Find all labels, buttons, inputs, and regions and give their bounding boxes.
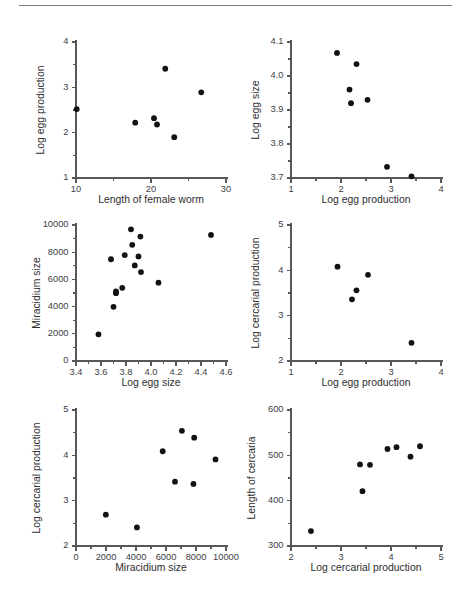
- y-axis-title: Length of cercaria: [246, 436, 257, 519]
- data-point: [417, 443, 423, 449]
- data-point: [357, 462, 363, 468]
- y-tick-label: 600: [268, 404, 284, 414]
- panel-5-plot: 23450200040006000800010000Miracidium siz…: [28, 398, 233, 573]
- y-tick-label: 4000: [48, 301, 69, 311]
- data-point: [208, 232, 214, 238]
- data-series: [96, 226, 214, 337]
- x-tick-label: 4000: [126, 552, 147, 562]
- y-tick-label: 400: [268, 495, 284, 505]
- x-tick-label: 4: [438, 184, 443, 194]
- data-point: [103, 512, 109, 518]
- y-axis-title: Log cercarial production: [250, 237, 261, 348]
- data-point: [409, 340, 415, 346]
- y-tick-label: 500: [268, 450, 284, 460]
- x-tick-label: 6000: [156, 552, 177, 562]
- panel-6: 3004005006002345Log cercarial production…: [243, 398, 448, 573]
- data-series: [334, 50, 414, 179]
- data-point: [385, 446, 391, 452]
- x-tick-label: 5: [438, 552, 443, 562]
- data-point: [119, 285, 125, 291]
- y-tick-label: 3: [63, 495, 68, 505]
- x-tick-label: 3: [388, 184, 393, 194]
- x-tick-label: 8000: [186, 552, 207, 562]
- x-tick-label: 4.2: [170, 367, 183, 377]
- x-tick-label: 3: [338, 552, 343, 562]
- y-tick-label: 3.9: [271, 104, 284, 114]
- data-point: [409, 173, 415, 179]
- y-axis-title: Log cercarial production: [31, 422, 42, 533]
- panel-2: 3.73.83.94.04.11234Log egg productionLog…: [243, 30, 448, 205]
- y-tick-label: 5: [63, 404, 68, 414]
- data-point: [111, 304, 117, 310]
- y-tick-label: 3: [278, 310, 283, 320]
- data-point: [408, 454, 414, 460]
- data-point: [347, 87, 353, 93]
- y-tick-label: 5: [278, 219, 283, 229]
- data-point: [136, 254, 142, 260]
- x-axis-title: Log egg size: [122, 377, 181, 388]
- panel-6-plot: 3004005006002345Log cercarial production…: [243, 398, 448, 573]
- data-series: [308, 443, 423, 534]
- panel-2-plot: 3.73.83.94.04.11234Log egg productionLog…: [243, 30, 448, 205]
- x-axis-title: Log cercarial production: [311, 562, 422, 573]
- top-horizontal-rule: [19, 5, 452, 6]
- data-point: [128, 226, 134, 232]
- data-point: [132, 120, 138, 126]
- figure-page: 1234102030Length of female wormLog egg p…: [0, 0, 461, 603]
- y-tick-label: 0: [63, 355, 68, 365]
- data-point: [334, 50, 340, 56]
- data-point: [134, 525, 140, 531]
- panel-3: 02000400060008000100003.43.63.84.04.24.4…: [28, 213, 233, 388]
- y-tick-label: 10000: [43, 219, 69, 229]
- data-point: [354, 287, 360, 293]
- data-point: [74, 106, 80, 112]
- y-tick-label: 3: [63, 82, 68, 92]
- y-tick-label: 2: [278, 355, 283, 365]
- y-tick-label: 4.1: [271, 36, 284, 46]
- x-tick-label: 1: [288, 367, 293, 377]
- y-tick-label: 4: [278, 265, 283, 275]
- y-axis-title: Miracidium size: [31, 257, 42, 329]
- data-point: [308, 528, 314, 534]
- data-point: [154, 122, 160, 128]
- data-point: [384, 164, 390, 170]
- data-point: [132, 262, 138, 268]
- x-tick-label: 10000: [213, 552, 239, 562]
- data-point: [108, 256, 114, 262]
- data-point: [122, 252, 128, 258]
- x-axis-title: Log egg production: [322, 194, 411, 205]
- x-tick-label: 0: [73, 552, 78, 562]
- y-tick-label: 1: [63, 172, 68, 182]
- y-tick-label: 8000: [48, 247, 69, 257]
- data-point: [198, 89, 204, 95]
- data-point: [151, 115, 157, 121]
- y-tick-label: 4: [63, 36, 68, 46]
- data-series: [335, 264, 415, 346]
- y-tick-label: 4: [63, 450, 68, 460]
- data-point: [179, 428, 185, 434]
- x-tick-label: 4.0: [145, 367, 158, 377]
- panel-4: 23451234Log egg productionLog cercarial …: [243, 213, 448, 388]
- x-tick-label: 2: [338, 367, 343, 377]
- data-point: [191, 435, 197, 441]
- data-point: [138, 269, 144, 275]
- y-tick-label: 2000: [48, 328, 69, 338]
- data-point: [172, 479, 178, 485]
- panel-5: 23450200040006000800010000Miracidium siz…: [28, 398, 233, 573]
- data-point: [213, 457, 219, 463]
- panel-1: 1234102030Length of female wormLog egg p…: [28, 30, 233, 205]
- x-tick-label: 30: [221, 184, 231, 194]
- data-point: [137, 234, 143, 240]
- data-point: [113, 290, 119, 296]
- x-tick-label: 4: [388, 552, 393, 562]
- data-point: [335, 264, 341, 270]
- data-point: [171, 134, 177, 140]
- data-point: [348, 100, 354, 106]
- data-point: [191, 481, 197, 487]
- data-series: [103, 428, 218, 530]
- x-tick-label: 2: [288, 552, 293, 562]
- x-axis-title: Length of female worm: [98, 194, 204, 205]
- data-point: [162, 66, 168, 72]
- x-tick-label: 2000: [96, 552, 117, 562]
- x-tick-label: 4.6: [220, 367, 233, 377]
